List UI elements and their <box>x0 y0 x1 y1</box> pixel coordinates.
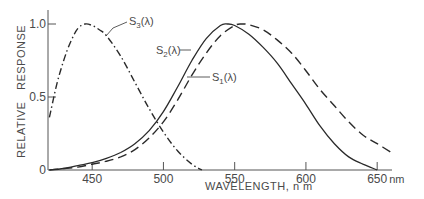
series-layer <box>49 24 391 170</box>
leader-line-s3 <box>106 22 127 36</box>
svg-text:S3(λ): S3(λ) <box>129 15 154 30</box>
x-tick-label: 650 <box>367 172 387 186</box>
x-tick-label: 450 <box>82 172 102 186</box>
series-line-s2 <box>49 24 377 170</box>
y-axis-title-relative: RELATIVE <box>15 102 27 158</box>
series-label-s1: S1(λ) <box>187 71 237 86</box>
series-label-s3: S3(λ) <box>106 15 154 36</box>
x-axis-unit: nm <box>389 173 404 185</box>
x-tick-label: 500 <box>153 172 173 186</box>
y-tick-label: 0 <box>39 163 46 177</box>
x-axis-title: WAVELENGTH, n m <box>205 180 313 192</box>
svg-text:S1(λ): S1(λ) <box>212 71 237 86</box>
y-axis-title-response: RESPONSE <box>15 25 27 90</box>
axes <box>48 10 392 170</box>
series-line-s1 <box>49 24 391 170</box>
series-label-s2: S2(λ) <box>156 44 191 59</box>
spectral-response-chart: 450500550600650 00.51.0 WAVELENGTH, n m … <box>0 0 424 199</box>
y-axis-ticks: 00.51.0 <box>29 17 56 177</box>
svg-text:S2(λ): S2(λ) <box>156 44 181 59</box>
y-tick-label: 0.5 <box>29 90 46 104</box>
y-tick-label: 1.0 <box>29 17 46 31</box>
